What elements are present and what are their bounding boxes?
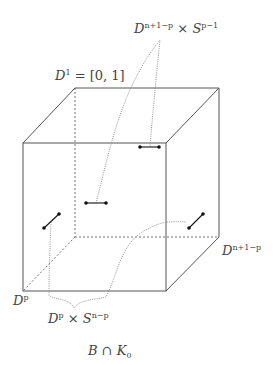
- bottom-left-depth-edge: [23, 237, 75, 291]
- label-bottom-product: Dp × Sn−p: [47, 311, 109, 326]
- top-arch-curve: [96, 40, 160, 203]
- segment-center: [84, 201, 108, 205]
- label-left-disk: Dp: [12, 293, 29, 308]
- segment-left-diagonal: [42, 212, 61, 230]
- caption: B ∩ K0: [87, 343, 132, 360]
- top-left-depth-edge: [23, 88, 75, 143]
- cube-diagram: Dn+1−p × Sp−1 D1 = [0, 1] Dn+1−p Dp Dp ×…: [0, 0, 273, 365]
- top-right-depth-edge: [166, 88, 219, 143]
- label-interval: D1 = [0, 1]: [54, 68, 125, 83]
- segment-top-right: [138, 145, 161, 149]
- label-right-disk: Dn+1−p: [221, 243, 261, 258]
- label-top-product: Dn+1−p × Sp−1: [133, 21, 218, 36]
- interval-segments: [42, 145, 205, 230]
- segment-right-diagonal: [187, 212, 205, 230]
- bottom-right-depth-edge: [166, 237, 219, 291]
- bottom-brace-curve: [49, 222, 186, 308]
